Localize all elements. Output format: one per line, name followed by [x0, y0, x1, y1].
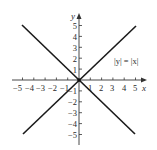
svg-text:4: 4 [73, 32, 78, 42]
x-axis-arrow-icon [141, 78, 147, 83]
y-axis-arrow-icon [77, 13, 82, 19]
svg-text:−3: −3 [36, 83, 45, 93]
svg-text:−4: −4 [68, 119, 78, 129]
origin-point [77, 78, 81, 82]
svg-text:3: 3 [110, 83, 114, 93]
svg-text:−3: −3 [68, 108, 77, 118]
svg-text:−2: −2 [68, 97, 77, 107]
y-axis-label: y [70, 11, 75, 21]
svg-text:−4: −4 [25, 83, 35, 93]
svg-text:2: 2 [73, 54, 77, 64]
x-axis-label: x [141, 83, 146, 93]
equation-label: |y| = |x| [114, 56, 139, 66]
svg-text:3: 3 [73, 43, 77, 53]
svg-text:1: 1 [88, 83, 92, 93]
svg-text:−1: −1 [68, 86, 77, 96]
graph-figure: −5 −4 −3 −2 −1 1 2 3 4 5 x 5 4 3 2 1 −1 … [0, 0, 157, 150]
svg-text:−5: −5 [68, 130, 77, 140]
svg-text:1: 1 [73, 65, 77, 75]
svg-text:5: 5 [133, 83, 137, 93]
svg-text:−2: −2 [48, 83, 57, 93]
svg-text:4: 4 [122, 83, 127, 93]
svg-text:2: 2 [99, 83, 103, 93]
svg-text:5: 5 [73, 21, 77, 31]
svg-text:−5: −5 [13, 83, 22, 93]
